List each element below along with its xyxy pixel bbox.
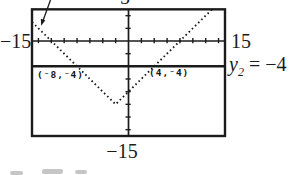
calculator-screenshot-figure: −15 15 y2 = −4 −15 5 (⁻8,⁻4) (4,⁻4) (0, 0, 289, 175)
ymin-label: −15 (100, 141, 144, 161)
y2-equation-label: y2 = −4 (229, 54, 286, 74)
series-y1 (32, 9, 212, 104)
xmax-label: 15 (231, 31, 251, 51)
ymax-partial-label: 5 (119, 0, 136, 9)
plot-canvas (0, 0, 289, 175)
y2-variable: y (229, 53, 238, 75)
xmin-label: −15 (0, 31, 31, 51)
point-label-left: (⁻8,⁻4) (37, 69, 84, 80)
arrow-annotation (41, 0, 51, 26)
point-label-right: (4,⁻4) (149, 67, 189, 78)
y2-equals-value: = −4 (244, 53, 287, 75)
